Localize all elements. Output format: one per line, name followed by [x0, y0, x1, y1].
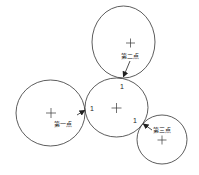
- second-point-label: 第二点: [121, 52, 139, 60]
- bottom-right-center-cross-icon: [158, 136, 167, 145]
- center-center-cross-icon: [112, 103, 122, 113]
- top-center-cross-icon: [126, 39, 135, 48]
- third-point-arrow-icon: [144, 124, 153, 130]
- tangent-number-right: 1: [133, 117, 137, 124]
- third-point-label: 第三点: [153, 126, 171, 134]
- left-center-cross-icon: [46, 108, 56, 118]
- tangent-circles-diagram: 第二点 第一点 第三点 1 1 1: [0, 0, 199, 175]
- second-point-arrow-icon: [124, 61, 131, 77]
- first-point-arrow-icon: [77, 111, 85, 116]
- tangent-number-left: 1: [90, 105, 94, 112]
- tangent-number-top: 1: [120, 83, 124, 90]
- top-circle: [92, 6, 155, 78]
- first-point-label: 第一点: [54, 120, 72, 128]
